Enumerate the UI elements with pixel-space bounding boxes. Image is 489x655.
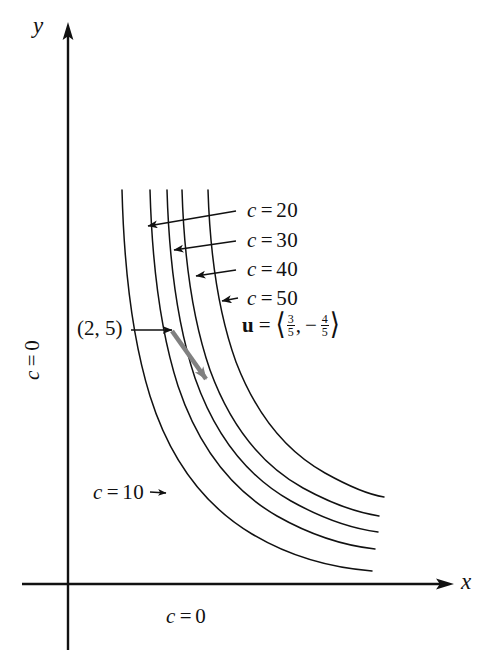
y-axis-contour-label: c=0 (22, 340, 43, 380)
vector-open-bracket: ⟨ (276, 314, 286, 338)
contour-label-c40-value: 40 (276, 257, 298, 281)
vector-component-1: 3 5 (287, 313, 295, 338)
leader-line-c10 (150, 492, 166, 493)
contour-label-c40-symbol: c (247, 257, 258, 281)
vector-minus-sign: − (304, 315, 320, 336)
contour-label-c20-equals: = (258, 198, 276, 222)
x-axis-contour-value: 0 (195, 604, 206, 628)
vector-u-symbol: u (242, 315, 254, 336)
contour-label-c50-symbol: c (247, 286, 258, 310)
level-curves-figure: y x c=20 c=30 c=40 c=50 c=10 (2, 5) u = … (0, 0, 489, 655)
contour-label-c20: c=20 (247, 200, 298, 221)
contour-label-c40: c=40 (247, 259, 298, 280)
vector-component-1-denominator: 5 (287, 326, 295, 338)
contour-label-c30-symbol: c (247, 228, 258, 252)
leader-line-c40 (196, 270, 236, 276)
contour-label-c30-equals: = (258, 228, 276, 252)
contour-label-c50-equals: = (258, 286, 276, 310)
vector-comma: , (296, 315, 304, 336)
y-axis-label: y (33, 14, 43, 37)
leader-line-c30 (174, 241, 236, 250)
contour-label-c30-value: 30 (276, 228, 298, 252)
vector-component-1-numerator: 3 (287, 313, 295, 325)
contour-label-c20-value: 20 (276, 198, 298, 222)
contour-label-c10: c=10 (93, 482, 144, 503)
x-axis-contour-symbol: c (166, 604, 177, 628)
contour-label-c30: c=30 (247, 230, 298, 251)
contour-label-c50: c=50 (247, 288, 298, 309)
y-axis-contour-equals: = (20, 351, 44, 369)
contour-label-c10-equals: = (104, 480, 122, 504)
contour-label-c40-equals: = (258, 257, 276, 281)
leader-lines-group (148, 211, 238, 493)
contour-label-c50-value: 50 (276, 286, 298, 310)
vector-u-equals: = (254, 315, 276, 336)
vector-u-label: u = ⟨ 3 5 , − 4 5 ⟩ (242, 313, 340, 338)
x-axis-contour-label: c=0 (166, 606, 206, 627)
leader-line-c20 (148, 211, 236, 226)
vector-component-2: 4 5 (321, 313, 329, 338)
point-label: (2, 5) (77, 318, 123, 339)
y-axis-contour-symbol: c (20, 369, 44, 380)
x-axis-contour-equals: = (177, 604, 195, 628)
contour-label-c20-symbol: c (247, 198, 258, 222)
vector-component-2-numerator: 4 (321, 313, 329, 325)
vector-component-2-denominator: 5 (321, 326, 329, 338)
y-axis-contour-value: 0 (20, 340, 44, 351)
contour-label-c10-symbol: c (93, 480, 104, 504)
vector-close-bracket: ⟩ (330, 314, 340, 338)
contour-label-c10-value: 10 (122, 480, 144, 504)
x-axis-label: x (461, 570, 471, 593)
leader-line-c50 (222, 298, 238, 301)
